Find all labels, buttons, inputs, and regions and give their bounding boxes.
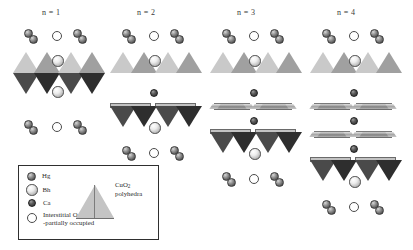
ba-atom	[249, 55, 261, 67]
cuo2-plane	[356, 103, 392, 110]
hg-atom	[375, 206, 384, 215]
legend-polyhedra-subscript: 2	[128, 183, 131, 189]
hg-atom	[29, 126, 38, 135]
ba-atom	[149, 122, 161, 134]
interstitial-oxygen-atom	[149, 148, 159, 158]
legend-item-ca: Ca	[28, 199, 51, 207]
ba-atom	[149, 55, 161, 67]
ca-atom	[150, 89, 158, 97]
ca-atom	[250, 117, 258, 125]
ca-atom	[350, 117, 358, 125]
ca-atom	[350, 145, 358, 153]
interstitial-oxygen-atom	[349, 31, 359, 41]
cuo2-pyramid-down	[276, 132, 302, 153]
hg-atom	[275, 178, 284, 187]
ba-sphere-icon	[26, 184, 38, 196]
open-circle-icon	[27, 213, 37, 223]
cuo2-octahedron-lower	[79, 73, 105, 94]
hg-atom	[175, 152, 184, 161]
hg-atom	[127, 35, 136, 44]
interstitial-oxygen-atom	[249, 174, 259, 184]
cuo2-pyramid-down	[376, 160, 402, 181]
ca-sphere-icon	[28, 199, 36, 207]
interstitial-oxygen-atom	[149, 31, 159, 41]
interstitial-oxygen-atom	[349, 202, 359, 212]
legend-label-ca: Ca	[43, 199, 51, 207]
ba-atom	[349, 176, 361, 188]
hg-atom	[375, 35, 384, 44]
legend-polyhedra-caption: CuO2 polyhedra	[115, 181, 142, 199]
legend-item-ba: Bh	[26, 184, 50, 196]
hg-atom	[127, 152, 136, 161]
legend-box: Hg Bh Ca Interstitial O (δ) -partially o…	[18, 165, 159, 240]
hg-atom	[227, 178, 236, 187]
hg-atom	[78, 35, 87, 44]
column-header-n4: n = 4	[337, 8, 356, 17]
cuo2-octahedron-upper	[79, 52, 105, 73]
legend-polyhedra-word: polyhedra	[115, 190, 142, 199]
legend-label-partially-occupied: -partially occupied	[43, 219, 94, 227]
column-header-n3: n = 3	[237, 8, 256, 17]
ba-atom	[52, 86, 64, 98]
cuo2-polyhedra-icon	[75, 185, 115, 219]
cuo2-plane	[256, 103, 292, 110]
ca-atom	[350, 89, 358, 97]
cuo2-plane	[356, 131, 392, 138]
ba-atom	[52, 55, 64, 67]
cuo2-pyramid-up	[176, 52, 202, 73]
cuo2-plane	[314, 131, 350, 138]
hg-sphere-icon	[27, 172, 36, 181]
cuo2-pyramid-up	[276, 52, 302, 73]
ba-atom	[349, 55, 361, 67]
hg-atom	[29, 35, 38, 44]
ba-atom	[249, 148, 261, 160]
hg-atom	[78, 126, 87, 135]
interstitial-oxygen-atom	[52, 31, 62, 41]
cuo2-plane	[214, 103, 250, 110]
column-header-n1: n = 1	[42, 8, 61, 17]
legend-label-hg: Hg	[42, 172, 50, 180]
ca-atom	[250, 89, 258, 97]
hg-atom	[175, 35, 184, 44]
interstitial-oxygen-atom	[52, 122, 62, 132]
legend-polyhedra-formula: CuO	[115, 181, 128, 188]
interstitial-oxygen-atom	[249, 31, 259, 41]
legend-item-hg: Hg	[27, 172, 50, 181]
legend-label-ba: Bh	[43, 186, 51, 194]
hg-atom	[275, 35, 284, 44]
hg-atom	[327, 206, 336, 215]
figure-canvas: n = 1 n = 2 n = 3 n = 4	[0, 0, 413, 250]
cuo2-pyramid-up	[376, 52, 402, 73]
hg-atom	[327, 35, 336, 44]
cuo2-pyramid-down	[176, 106, 202, 127]
column-header-n2: n = 2	[137, 8, 156, 17]
hg-atom	[227, 35, 236, 44]
cuo2-plane	[314, 103, 350, 110]
